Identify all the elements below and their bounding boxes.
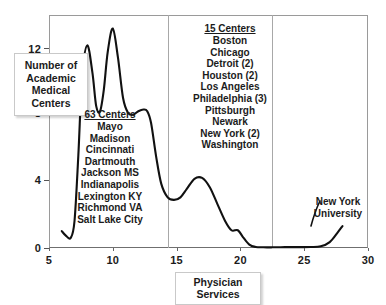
annotation-63-centers: 63 Centers Mayo Madison Cincinnati Dartm… <box>62 109 158 225</box>
annotation-15-centers: 15 Centers Boston Chicago Detroit (2) Ho… <box>175 23 285 151</box>
annotation-entry: Houston (2) <box>175 70 285 82</box>
x-tick-label-10: 10 <box>106 254 119 266</box>
y-axis-label-line-2: Academic <box>26 72 76 84</box>
annotation-entry: Philadelphia (3) <box>175 93 285 105</box>
annotation-entry: Cincinnati <box>62 144 158 156</box>
annotation-entry: Mayo <box>62 121 158 133</box>
annotation-entry: Madison <box>62 133 158 145</box>
y-tick-label: 4 <box>35 174 41 186</box>
annotation-entry: Chicago <box>175 47 285 59</box>
annotation-entry: New York <box>304 196 372 208</box>
y-axis-label-line-4: Centers <box>31 97 70 109</box>
y-tick-0: 0 <box>35 242 49 254</box>
annotation-entry: Los Angeles <box>175 81 285 93</box>
annotation-new-york-university: New York University <box>304 196 372 219</box>
y-axis-label: Number of Academic Medical Centers <box>14 53 88 116</box>
x-tick-mark <box>177 248 178 251</box>
tick-mark-icon <box>44 48 49 49</box>
y-axis-label-line-3: Medical <box>32 84 71 96</box>
annotation-entry: Pittsburgh <box>175 105 285 117</box>
annotation-entry: Newark <box>175 116 285 128</box>
x-axis-label: Physician Services <box>175 272 261 305</box>
x-tick-label-5: 5 <box>46 254 52 266</box>
annotation-entry: Salt Lake City <box>62 214 158 226</box>
annotation-entry: Dartmouth <box>62 156 158 168</box>
annotation-entry: Boston <box>175 35 285 47</box>
y-tick-4: 4 <box>35 174 49 186</box>
y-axis-label-line-1: Number of <box>25 59 78 71</box>
annotation-entry: New York (2) <box>175 128 285 140</box>
annotation-entry: Washington <box>175 139 285 151</box>
x-tick-label-20: 20 <box>234 254 247 266</box>
annotation-entry: University <box>304 208 372 220</box>
y-tick-label: 0 <box>35 242 41 254</box>
x-axis: 5 10 15 20 25 30 <box>49 248 368 270</box>
annotation-15-heading: 15 Centers <box>175 23 285 35</box>
x-tick-mark <box>240 248 241 251</box>
x-tick-mark <box>304 248 305 251</box>
annotation-entry: Richmond VA <box>62 202 158 214</box>
x-tick-mark <box>49 248 50 251</box>
annotation-entry: Indianapolis <box>62 179 158 191</box>
annotation-entry: Detroit (2) <box>175 58 285 70</box>
x-tick-label-30: 30 <box>362 254 375 266</box>
x-tick-mark <box>113 248 114 251</box>
annotation-entry: Jackson MS <box>62 167 158 179</box>
annotation-63-heading: 63 Centers <box>62 109 158 121</box>
x-tick-label-25: 25 <box>298 254 311 266</box>
x-tick-mark <box>368 248 369 251</box>
tick-mark-icon <box>44 180 49 181</box>
x-tick-label-15: 15 <box>170 254 183 266</box>
annotation-entry: Lexington KY <box>62 191 158 203</box>
